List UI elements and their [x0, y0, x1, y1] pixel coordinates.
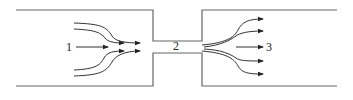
converging-streamlines	[74, 23, 140, 76]
section-3-label: 3	[266, 40, 272, 54]
diverging-streamlines	[202, 19, 263, 74]
section-1-label: 1	[66, 40, 72, 54]
section-2-label: 2	[173, 39, 179, 53]
flow-diagram: 1 2 3	[0, 0, 353, 100]
tube-svg: 1 2 3	[0, 0, 353, 100]
